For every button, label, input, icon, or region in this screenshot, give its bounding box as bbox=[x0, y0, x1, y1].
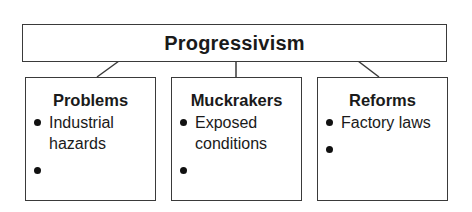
list-item-blank bbox=[180, 160, 301, 181]
category-heading: Reforms bbox=[326, 91, 447, 110]
list-item-blank bbox=[34, 160, 155, 181]
bullet-icon bbox=[326, 146, 333, 153]
category-box-problems: Problems Industrial hazards bbox=[25, 77, 156, 201]
title-box: Progressivism bbox=[22, 24, 447, 62]
category-box-muckrakers: Muckrakers Exposed conditions bbox=[171, 77, 302, 201]
category-heading: Muckrakers bbox=[180, 91, 301, 110]
list-item: Factory laws bbox=[326, 112, 447, 133]
concept-diagram: Progressivism Problems Industrial hazard… bbox=[0, 0, 472, 212]
list-item-blank bbox=[326, 139, 447, 160]
category-heading: Problems bbox=[34, 91, 155, 110]
list-item: Exposed conditions bbox=[180, 112, 301, 154]
bullet-icon bbox=[180, 119, 187, 126]
bullet-icon bbox=[34, 167, 41, 174]
bullet-icon bbox=[34, 119, 41, 126]
bullet-icon bbox=[180, 167, 187, 174]
category-box-reforms: Reforms Factory laws bbox=[317, 77, 448, 201]
bullet-icon bbox=[326, 119, 333, 126]
diagram-title: Progressivism bbox=[164, 32, 304, 55]
list-item: Industrial hazards bbox=[34, 112, 155, 154]
